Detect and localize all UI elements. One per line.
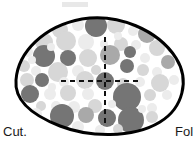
cell-circle — [113, 83, 141, 111]
cell-circle — [161, 55, 175, 69]
cell-circle — [79, 49, 97, 67]
cell-circle — [60, 85, 76, 101]
cell-circle — [91, 65, 101, 75]
cell-circle — [100, 45, 120, 65]
cell-circle — [124, 46, 136, 58]
cell-circle — [120, 59, 134, 73]
label-cut: Cut. — [3, 124, 27, 139]
cell-circle — [108, 100, 116, 108]
cell-circle — [28, 56, 36, 64]
cell-circle — [35, 73, 49, 87]
oocyte-diagram-svg: Cut. Fol — [0, 0, 195, 156]
cell-circle — [82, 88, 94, 100]
cell-circle — [162, 90, 172, 100]
cell-circle — [138, 105, 146, 113]
cell-circle — [20, 73, 34, 87]
cell-circle — [146, 111, 158, 123]
cell-circle — [137, 64, 149, 76]
cell-circle — [144, 89, 156, 101]
cell-circle — [78, 107, 94, 123]
cell-circle — [56, 31, 76, 51]
cell-circle — [98, 109, 116, 127]
cell-circle — [140, 53, 150, 63]
cell-circle — [78, 34, 94, 50]
cell-circle — [114, 32, 122, 40]
cell-circle — [48, 83, 56, 91]
cell-circle — [151, 74, 169, 92]
cell-circle — [21, 85, 39, 103]
cell-circle — [47, 43, 55, 51]
figure-container: Cut. Fol — [0, 0, 195, 156]
cell-circle — [169, 75, 179, 85]
label-fol: Fol — [175, 124, 193, 139]
faint-gray-smudge — [62, 2, 88, 7]
